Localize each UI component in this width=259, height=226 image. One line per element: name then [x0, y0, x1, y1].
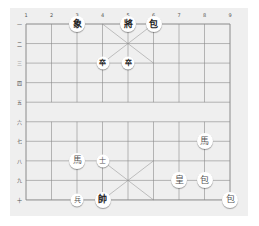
row-label: 五	[17, 100, 22, 105]
row-label: 八	[17, 158, 22, 163]
piece-red[interactable]: 馬	[197, 133, 213, 149]
piece-black[interactable]: 將	[120, 16, 136, 32]
piece-red[interactable]: 兵	[71, 193, 84, 206]
row-label: 九	[17, 178, 22, 183]
xiangqi-board	[10, 8, 248, 216]
piece-red[interactable]: 包	[197, 172, 213, 188]
row-label: 四	[17, 80, 22, 85]
row-label: 七	[17, 139, 22, 144]
piece-black[interactable]: 包	[146, 16, 162, 32]
column-label: 8	[203, 13, 206, 18]
piece-red[interactable]: 馬	[69, 153, 85, 169]
column-label: 1	[24, 13, 27, 18]
column-label: 9	[228, 13, 231, 18]
piece-black[interactable]: 卒	[96, 57, 109, 70]
column-label: 2	[50, 13, 53, 18]
row-label: 六	[17, 119, 22, 124]
piece-red[interactable]: 包	[222, 192, 238, 208]
board-grid	[10, 8, 248, 216]
column-label: 4	[101, 13, 104, 18]
row-label: 二	[17, 41, 22, 46]
column-label: 7	[177, 13, 180, 18]
piece-black[interactable]: 卒	[122, 57, 135, 70]
row-label: 三	[17, 61, 22, 66]
piece-red[interactable]: 皇	[171, 172, 187, 188]
piece-black[interactable]: 象	[69, 16, 85, 32]
piece-black[interactable]: 帥	[95, 192, 111, 208]
row-label: 十	[17, 197, 22, 202]
row-label: 一	[17, 22, 22, 27]
piece-red[interactable]: 士	[96, 154, 109, 167]
